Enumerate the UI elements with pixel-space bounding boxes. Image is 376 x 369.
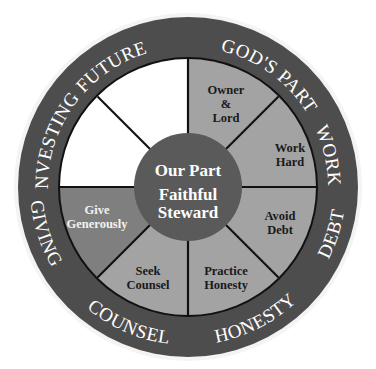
segment-label-honesty: Honesty: [204, 278, 249, 292]
hub-line-steward: Steward: [158, 203, 219, 222]
segment-label-generously: Generously: [67, 217, 129, 231]
segment-label-counsel: Counsel: [126, 278, 170, 292]
segment-label-owner: Owner: [208, 83, 245, 97]
segment-label-lord: Lord: [212, 111, 239, 125]
segment-label-seek: Seek: [136, 264, 161, 278]
segment-label-hard: Hard: [276, 155, 305, 169]
segment-label-ampersand: &: [221, 97, 231, 111]
hub-line-our-part: Our Part: [155, 161, 222, 180]
segment-label-debt: Debt: [267, 223, 294, 237]
segment-label-avoid: Avoid: [264, 209, 295, 223]
segment-label-practice: Practice: [204, 264, 248, 278]
segment-label-give: Give: [85, 203, 110, 217]
segment-label-work: Work: [275, 141, 306, 155]
hub-line-faithful: Faithful: [159, 185, 218, 204]
stewardship-wheel: Our Part Faithful Steward Owner & Lord W…: [0, 0, 376, 369]
